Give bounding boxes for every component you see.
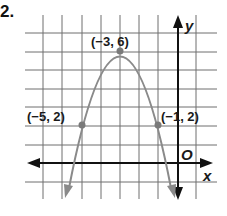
x-axis-label: x [202,167,212,184]
y-axis-label: y [184,17,194,34]
vertex-label: (−3, 6) [91,34,129,49]
left-point [79,122,86,129]
origin-label: O [181,146,193,163]
right-point-label: (−1, 2) [161,109,199,124]
left-point-label: (−5, 2) [27,109,65,124]
y-axis-up-arrow-icon [173,15,183,28]
curve-left-arrow-icon [64,184,73,198]
curve-right-arrow-icon [167,184,176,198]
coordinate-plane: (−3, 6) (−5, 2) (−1, 2) y x O [0,0,227,216]
x-axis-left-arrow-icon [27,158,40,168]
